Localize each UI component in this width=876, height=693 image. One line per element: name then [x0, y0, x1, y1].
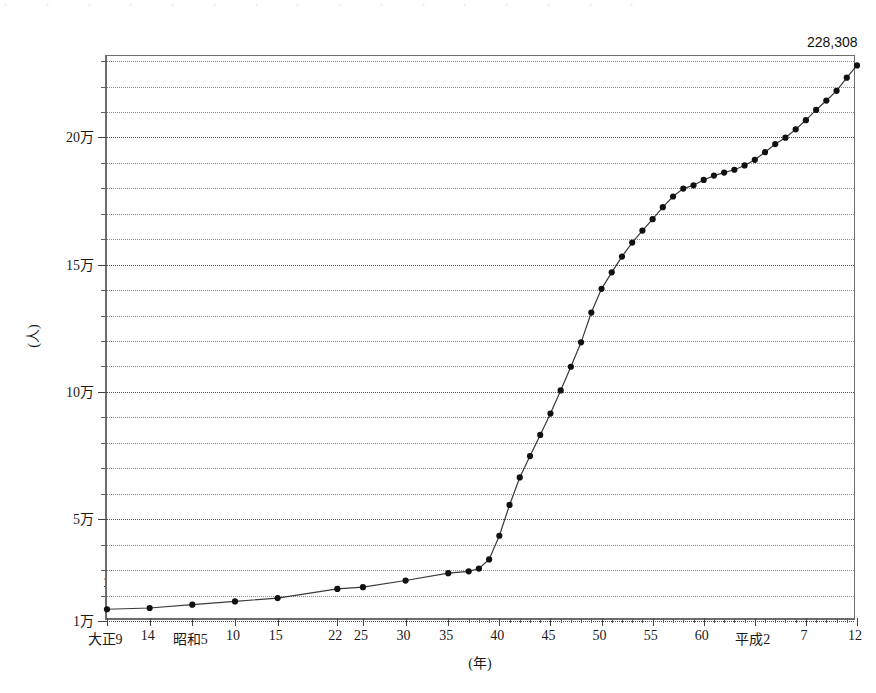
x-tick	[673, 618, 674, 623]
y-tick-label: 10万	[66, 381, 94, 401]
x-tick-label: 15	[269, 628, 283, 644]
data-point	[823, 97, 829, 103]
gridline-minor	[107, 443, 854, 444]
gridline-minor	[107, 290, 854, 291]
x-tick-label: 30	[397, 628, 411, 644]
y-tick	[101, 163, 107, 164]
gridline-minor	[107, 494, 854, 495]
x-tick	[694, 618, 695, 623]
x-tick	[806, 618, 807, 626]
x-tick-label: 45	[541, 628, 555, 644]
y-tick	[101, 443, 107, 444]
gridline-major	[107, 519, 854, 520]
x-tick	[785, 618, 786, 623]
x-tick	[847, 618, 848, 623]
x-tick	[714, 618, 715, 623]
data-point	[147, 605, 153, 611]
data-point	[619, 253, 625, 259]
x-tick	[755, 618, 756, 626]
y-tick	[101, 596, 107, 597]
x-tick-label: 7	[800, 628, 807, 644]
x-tick-label: 35	[439, 628, 453, 644]
data-point	[334, 586, 340, 592]
data-point	[104, 606, 110, 612]
x-tick	[724, 618, 725, 623]
data-point	[496, 533, 502, 539]
data-point	[793, 126, 799, 132]
data-point	[506, 502, 512, 508]
x-tick	[632, 618, 633, 623]
y-tick-label: 5万	[73, 508, 94, 528]
x-tick	[704, 618, 705, 626]
y-tick	[101, 188, 107, 189]
x-tick-label: 22	[328, 628, 342, 644]
data-point	[721, 169, 727, 175]
data-point	[629, 239, 635, 245]
x-tick-label: 14	[141, 628, 155, 644]
x-tick	[653, 618, 654, 626]
data-point	[527, 453, 533, 459]
x-tick	[448, 618, 449, 626]
gridline-minor	[107, 468, 854, 469]
y-tick	[98, 265, 107, 266]
y-tick	[101, 494, 107, 495]
gridline-major	[107, 265, 854, 266]
x-tick	[489, 618, 490, 623]
data-point	[609, 269, 615, 275]
data-series	[107, 56, 857, 621]
y-tick	[101, 570, 107, 571]
gridline-minor	[107, 239, 854, 240]
gridline-major	[107, 137, 854, 138]
data-point	[650, 216, 656, 222]
y-axis-title: (人)	[22, 324, 42, 347]
x-tick	[278, 618, 279, 626]
data-point	[660, 204, 666, 210]
data-point	[762, 149, 768, 155]
gridline-minor	[107, 596, 854, 597]
x-tick-label: 60	[695, 628, 709, 644]
data-point	[844, 75, 850, 81]
data-point	[701, 177, 707, 183]
plot-area	[105, 55, 855, 620]
data-point	[232, 598, 238, 604]
y-tick	[101, 468, 107, 469]
x-tick	[816, 618, 817, 623]
data-point	[402, 577, 408, 583]
x-tick	[406, 618, 407, 626]
x-tick-label: 40	[490, 628, 504, 644]
x-tick	[775, 618, 776, 623]
x-tick	[765, 618, 766, 623]
x-tick	[550, 618, 551, 626]
x-tick-label: 大正9	[88, 628, 123, 648]
y-tick	[101, 87, 107, 88]
y-tick	[98, 137, 107, 138]
x-tick	[150, 618, 151, 626]
x-tick	[499, 618, 500, 626]
x-tick	[826, 618, 827, 623]
x-tick	[663, 618, 664, 623]
last-point-label: 228,308	[807, 34, 858, 50]
data-point	[772, 141, 778, 147]
gridline-minor	[107, 188, 854, 189]
gridline-minor	[107, 545, 854, 546]
x-tick	[581, 618, 582, 623]
data-point	[486, 556, 492, 562]
gridline-minor	[107, 417, 854, 418]
top-cut-text: ・ ・ ・ ・ ・ ・ ・ ・ ・ ・ ・ ・ ・ ・ ・ ・	[0, 0, 876, 12]
y-tick	[101, 316, 107, 317]
x-tick	[622, 618, 623, 623]
x-tick	[192, 618, 193, 626]
x-tick	[561, 618, 562, 623]
x-tick-label: 12	[848, 628, 862, 644]
y-tick	[98, 519, 107, 520]
data-point	[189, 602, 195, 608]
y-tick	[101, 214, 107, 215]
x-tick-label: 50	[593, 628, 607, 644]
gridline-major	[107, 392, 854, 393]
y-tick-label: 1万	[73, 610, 94, 630]
x-tick	[530, 618, 531, 623]
data-point	[670, 193, 676, 199]
x-tick	[612, 618, 613, 623]
y-tick	[101, 290, 107, 291]
y-tick	[101, 239, 107, 240]
